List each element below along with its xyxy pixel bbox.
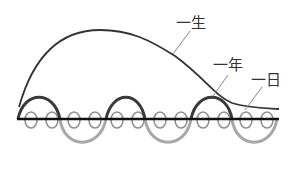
label-day: 一日 (251, 71, 281, 89)
label-lifetime: 一生 (176, 14, 206, 32)
year-cycle-troughs (60, 119, 277, 142)
year-cycle-peaks (18, 97, 232, 119)
cycles-diagram: 一生 一年 一日 (0, 0, 299, 189)
label-year: 一年 (213, 56, 243, 74)
